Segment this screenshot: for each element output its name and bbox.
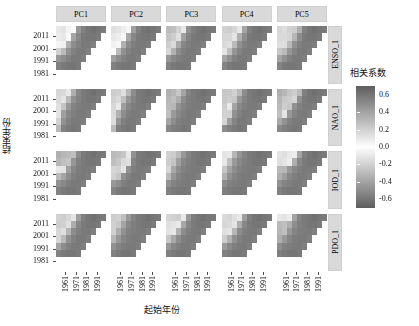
x-axis-tick-label: 1981 xyxy=(82,276,91,292)
x-axis-tick-label: 1981 xyxy=(138,276,147,292)
y-axis-tick xyxy=(53,74,56,75)
x-axis-tick-label: 1981 xyxy=(303,276,312,292)
heatmap-canvas xyxy=(166,151,216,209)
x-axis-tick xyxy=(86,272,87,275)
y-axis-title: 结束年份 xyxy=(2,118,16,154)
column-strip-pc1: PC1 xyxy=(56,6,106,22)
heatmap-canvas xyxy=(222,26,272,84)
column-strip-label: PC4 xyxy=(240,10,254,19)
x-axis-tick xyxy=(65,272,66,275)
y-axis-tick-label: 2001 xyxy=(23,169,49,178)
row-strip-label: PDO_1 xyxy=(331,230,340,254)
column-strip-pc5: PC5 xyxy=(277,6,327,22)
column-strip-label: PC2 xyxy=(129,10,143,19)
x-axis-tick xyxy=(197,272,198,275)
x-axis-tick-label: 1961 xyxy=(61,276,70,292)
heatmap-canvas xyxy=(111,151,161,209)
legend-title: 相关系数 xyxy=(350,66,386,79)
y-axis-tick xyxy=(53,36,56,37)
row-strip-pdo_1: PDO_1 xyxy=(328,214,342,272)
x-axis-tick-label: 1971 xyxy=(127,276,136,292)
y-axis-tick xyxy=(53,161,56,162)
heatmap-panel-iod_1-pc4 xyxy=(222,151,272,209)
heatmap-panel-enso_1-pc4 xyxy=(222,26,272,84)
heatmap-panel-pdo_1-pc4 xyxy=(222,214,272,272)
heatmap-canvas xyxy=(166,214,216,272)
heatmap-panel-nao_1-pc1 xyxy=(56,89,106,147)
y-axis-tick xyxy=(53,249,56,250)
y-axis-tick-label: 2011 xyxy=(23,31,49,40)
y-axis-tick-label: 2011 xyxy=(23,219,49,228)
row-strip-label: NAO_1 xyxy=(331,105,340,130)
x-axis-tick-label: 1981 xyxy=(193,276,202,292)
heatmap-panel-enso_1-pc3 xyxy=(166,26,216,84)
y-axis-tick-label: 2001 xyxy=(23,106,49,115)
legend-tick-label: 0.4 xyxy=(379,107,389,116)
heatmap-canvas xyxy=(222,214,272,272)
row-strip-iod_1: IOD_1 xyxy=(328,151,342,209)
heatmap-panel-pdo_1-pc1 xyxy=(56,214,106,272)
x-axis-tick-label: 1961 xyxy=(116,276,125,292)
y-axis-tick-label: 2001 xyxy=(23,44,49,53)
heatmap-panel-nao_1-pc3 xyxy=(166,89,216,147)
legend-tick xyxy=(357,147,360,148)
heatmap-canvas xyxy=(56,89,106,147)
y-axis-tick xyxy=(53,111,56,112)
legend-tick-label: -0.6 xyxy=(379,194,392,203)
x-axis-tick-label: 1961 xyxy=(282,276,291,292)
y-axis-tick xyxy=(53,99,56,100)
heatmap-panel-enso_1-pc2 xyxy=(111,26,161,84)
y-axis-tick-label: 1981 xyxy=(23,194,49,203)
y-axis-tick-label: 1991 xyxy=(23,244,49,253)
heatmap-panel-iod_1-pc1 xyxy=(56,151,106,209)
y-axis-tick-label: 1981 xyxy=(23,256,49,265)
legend-tick-label: 0.6 xyxy=(379,90,389,99)
x-axis-tick xyxy=(252,272,253,275)
legend-tick-label: 0.2 xyxy=(379,125,389,134)
x-axis-tick-label: 1961 xyxy=(227,276,236,292)
y-axis-tick xyxy=(53,136,56,137)
row-strip-enso_1: ENSO_1 xyxy=(328,26,342,84)
heatmap-canvas xyxy=(277,214,327,272)
heatmap-panel-iod_1-pc5 xyxy=(277,151,327,209)
x-axis-tick xyxy=(152,272,153,275)
x-axis-title: 起始年份 xyxy=(0,303,324,316)
x-axis-tick xyxy=(241,272,242,275)
x-axis-tick xyxy=(175,272,176,275)
legend-tick xyxy=(357,164,360,165)
column-strip-label: PC3 xyxy=(184,10,198,19)
x-axis-tick xyxy=(142,272,143,275)
heatmap-panel-pdo_1-pc3 xyxy=(166,214,216,272)
x-axis-tick xyxy=(231,272,232,275)
row-strip-label: ENSO_1 xyxy=(331,40,340,69)
heatmap-panel-nao_1-pc2 xyxy=(111,89,161,147)
x-axis-tick-label: 1971 xyxy=(292,276,301,292)
legend-tick xyxy=(357,182,360,183)
x-axis-tick xyxy=(131,272,132,275)
heatmap-canvas xyxy=(111,214,161,272)
y-axis-tick-label: 2001 xyxy=(23,231,49,240)
x-axis-tick-label: 1961 xyxy=(171,276,180,292)
y-axis-tick-label: 2011 xyxy=(23,94,49,103)
heatmap-canvas xyxy=(56,26,106,84)
y-axis-tick xyxy=(53,236,56,237)
x-axis-tick xyxy=(296,272,297,275)
y-axis-tick xyxy=(53,224,56,225)
x-axis-tick xyxy=(263,272,264,275)
y-axis-tick xyxy=(53,61,56,62)
legend-tick xyxy=(357,130,360,131)
x-axis-tick-label: 1971 xyxy=(72,276,81,292)
legend-tick xyxy=(357,112,360,113)
heatmap-panel-pdo_1-pc2 xyxy=(111,214,161,272)
heatmap-canvas xyxy=(111,26,161,84)
x-axis-tick xyxy=(207,272,208,275)
y-axis-tick-label: 2011 xyxy=(23,156,49,165)
y-axis-tick xyxy=(53,261,56,262)
x-axis-tick-label: 1971 xyxy=(237,276,246,292)
x-axis-tick xyxy=(307,272,308,275)
heatmap-panel-pdo_1-pc5 xyxy=(277,214,327,272)
heatmap-panel-nao_1-pc4 xyxy=(222,89,272,147)
x-axis-tick-label: 1981 xyxy=(248,276,257,292)
x-axis-tick-label: 1991 xyxy=(259,276,268,292)
y-axis-tick-label: 1991 xyxy=(23,56,49,65)
